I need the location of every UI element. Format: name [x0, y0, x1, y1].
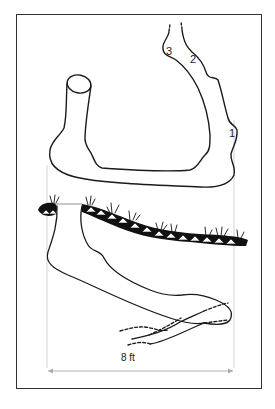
stage-label-3: 3 [166, 45, 172, 57]
entrance-hole [65, 73, 92, 96]
guide-lines [47, 120, 234, 368]
stage-label-2: 2 [190, 53, 196, 65]
upper-burrow-plan [50, 22, 237, 187]
ground-surface [38, 195, 248, 246]
scale-label: 8 ft [121, 352, 135, 363]
scale-arrow [48, 369, 233, 374]
burrow-diagram: 3 2 1 [0, 0, 275, 409]
stage-label-1: 1 [229, 127, 235, 139]
